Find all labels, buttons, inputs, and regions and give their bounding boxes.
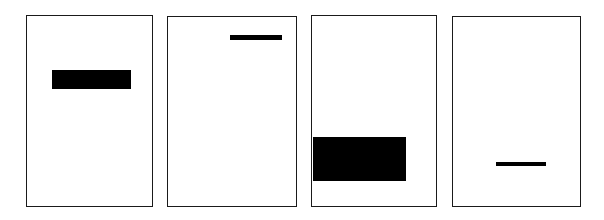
panel-1 bbox=[26, 15, 153, 207]
panel-4 bbox=[452, 16, 581, 207]
panel-2 bbox=[167, 16, 297, 207]
thin-bar-lower-center bbox=[496, 162, 546, 166]
thick-bar-upper-left bbox=[52, 70, 131, 89]
composition-canvas bbox=[0, 0, 604, 220]
panel-3 bbox=[311, 15, 437, 207]
large-block-lower-left bbox=[313, 137, 406, 181]
thin-bar-top-right bbox=[230, 35, 282, 40]
